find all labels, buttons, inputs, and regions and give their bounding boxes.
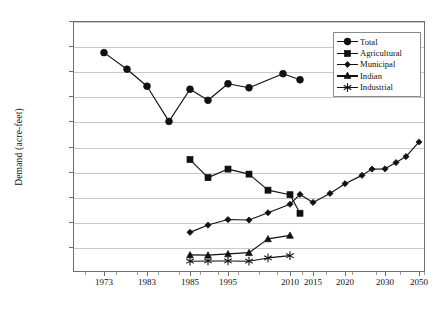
data-point <box>225 80 232 87</box>
series-line <box>190 235 290 255</box>
data-point <box>246 84 253 91</box>
data-point <box>327 190 333 196</box>
data-point <box>297 210 303 216</box>
data-point <box>246 217 252 223</box>
data-point <box>280 70 287 77</box>
legend-item-indian[interactable]: Indian <box>337 70 416 81</box>
data-point <box>297 76 304 83</box>
data-point <box>144 83 151 90</box>
legend-item-municipal[interactable]: Municipal <box>337 59 416 70</box>
triangle-icon <box>337 70 358 81</box>
demand-line-chart: Demand (acre-feet) 5,000,0004,500,0004,0… <box>0 0 443 310</box>
data-point <box>310 199 316 205</box>
data-point <box>287 192 293 198</box>
data-point <box>265 210 271 216</box>
legend-item-total[interactable]: Total <box>337 36 416 47</box>
data-point <box>205 97 212 104</box>
series-line <box>190 256 290 262</box>
data-point <box>369 166 375 172</box>
data-point <box>225 166 231 172</box>
data-point <box>187 86 194 93</box>
data-point <box>382 166 388 172</box>
legend-item-industrial[interactable]: Industrial <box>337 82 416 93</box>
data-point <box>205 175 211 181</box>
series-total <box>101 49 304 125</box>
circle-icon <box>337 36 358 47</box>
diamond-icon <box>337 59 358 70</box>
legend-label: Municipal <box>358 59 395 69</box>
data-point <box>187 229 193 235</box>
data-point <box>393 159 399 165</box>
data-point <box>101 49 108 56</box>
data-point <box>187 157 193 163</box>
legend-label: Agricultural <box>358 48 402 58</box>
data-point <box>287 232 294 238</box>
legend-item-agricultural[interactable]: Agricultural <box>337 47 416 58</box>
series-municipal <box>187 139 422 236</box>
data-point <box>205 222 211 228</box>
series-agricultural <box>187 157 303 217</box>
series-line <box>104 53 300 122</box>
data-point <box>225 216 231 222</box>
data-point <box>166 118 173 125</box>
series-indian <box>187 232 294 258</box>
star-icon <box>337 82 358 93</box>
data-point <box>246 171 252 177</box>
legend-label: Total <box>358 37 378 47</box>
series-line <box>190 142 419 232</box>
square-icon <box>337 48 358 59</box>
data-point <box>342 181 348 187</box>
data-point <box>359 172 365 178</box>
legend-label: Indian <box>358 71 382 81</box>
series-line <box>190 160 300 214</box>
chart-legend: TotalAgriculturalMunicipalIndianIndustri… <box>333 32 421 97</box>
legend-label: Industrial <box>358 82 393 92</box>
data-point <box>265 187 271 193</box>
data-point <box>124 66 131 73</box>
